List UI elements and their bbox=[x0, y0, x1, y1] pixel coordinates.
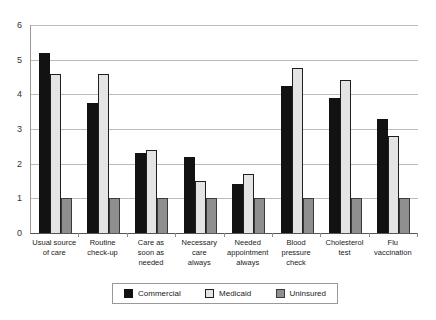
x-category-label: Blood pressure check bbox=[272, 238, 320, 267]
bar-medicaid bbox=[195, 181, 206, 233]
medicaid-swatch-icon bbox=[205, 289, 214, 298]
bar-commercial bbox=[377, 119, 388, 233]
y-tick-label-0: 0 bbox=[17, 229, 22, 238]
bar-medicaid bbox=[50, 74, 61, 233]
bar-group bbox=[225, 25, 273, 233]
y-tick-label-5: 5 bbox=[17, 56, 22, 65]
x-category-label: Usual source of care bbox=[30, 238, 78, 267]
y-tick-label-2: 2 bbox=[17, 160, 22, 169]
uninsured-swatch-icon bbox=[276, 289, 285, 298]
legend-item-commercial: Commercial bbox=[124, 289, 181, 298]
plot-area bbox=[30, 25, 418, 234]
bar-commercial bbox=[232, 184, 243, 233]
x-axis-tick bbox=[320, 233, 321, 237]
x-axis-tick bbox=[417, 233, 418, 237]
x-axis-tick bbox=[369, 233, 370, 237]
x-axis-category-labels: Usual source of careRoutine check-upCare… bbox=[30, 238, 417, 267]
bar-uninsured bbox=[351, 198, 362, 233]
commercial-swatch-icon bbox=[124, 289, 133, 298]
bar-group bbox=[321, 25, 369, 233]
y-tick-label-4: 4 bbox=[17, 90, 22, 99]
y-tick-label-3: 3 bbox=[17, 125, 22, 134]
bar-medicaid bbox=[340, 80, 351, 233]
x-category-label: Care as soon as needed bbox=[127, 238, 175, 267]
bar-medicaid bbox=[146, 150, 157, 233]
bar-medicaid bbox=[243, 174, 254, 233]
legend-item-medicaid: Medicaid bbox=[205, 289, 251, 298]
x-axis-tick bbox=[224, 233, 225, 237]
bar-group bbox=[31, 25, 79, 233]
bar-medicaid bbox=[292, 68, 303, 233]
bar-commercial bbox=[329, 98, 340, 233]
bar-uninsured bbox=[399, 198, 410, 233]
y-axis-labels: 0123456 bbox=[0, 25, 26, 233]
y-tick-label-6: 6 bbox=[17, 21, 22, 30]
bar-group bbox=[79, 25, 127, 233]
legend-label: Uninsured bbox=[290, 289, 326, 298]
bar-groups bbox=[31, 25, 418, 233]
bar-commercial bbox=[135, 153, 146, 233]
bar-uninsured bbox=[157, 198, 168, 233]
x-axis-tick bbox=[272, 233, 273, 237]
x-category-label: Cholesterol test bbox=[320, 238, 368, 267]
x-category-label: Routine check-up bbox=[78, 238, 126, 267]
bar-medicaid bbox=[388, 136, 399, 233]
x-category-label: Necessary care always bbox=[175, 238, 223, 267]
bar-commercial bbox=[87, 103, 98, 233]
bar-uninsured bbox=[206, 198, 217, 233]
bar-uninsured bbox=[254, 198, 265, 233]
bar-uninsured bbox=[303, 198, 314, 233]
legend-item-uninsured: Uninsured bbox=[276, 289, 326, 298]
y-tick-label-1: 1 bbox=[17, 194, 22, 203]
x-axis-tick bbox=[175, 233, 176, 237]
bar-chart-figure: 0123456 Usual source of careRoutine chec… bbox=[0, 0, 436, 320]
bar-commercial bbox=[281, 86, 292, 233]
x-axis-tick bbox=[78, 233, 79, 237]
bar-group bbox=[370, 25, 418, 233]
legend-label: Commercial bbox=[138, 289, 181, 298]
bar-uninsured bbox=[109, 198, 120, 233]
x-category-label: Flu vaccination bbox=[369, 238, 417, 267]
bar-commercial bbox=[39, 53, 50, 233]
x-category-label: Needed appointment always bbox=[224, 238, 272, 267]
bar-group bbox=[128, 25, 176, 233]
legend: Commercial Medicaid Uninsured bbox=[112, 283, 338, 304]
bar-uninsured bbox=[61, 198, 72, 233]
legend-label: Medicaid bbox=[219, 289, 251, 298]
x-axis-tick bbox=[127, 233, 128, 237]
bar-group bbox=[176, 25, 224, 233]
bar-commercial bbox=[184, 157, 195, 233]
bar-group bbox=[273, 25, 321, 233]
bar-medicaid bbox=[98, 74, 109, 233]
